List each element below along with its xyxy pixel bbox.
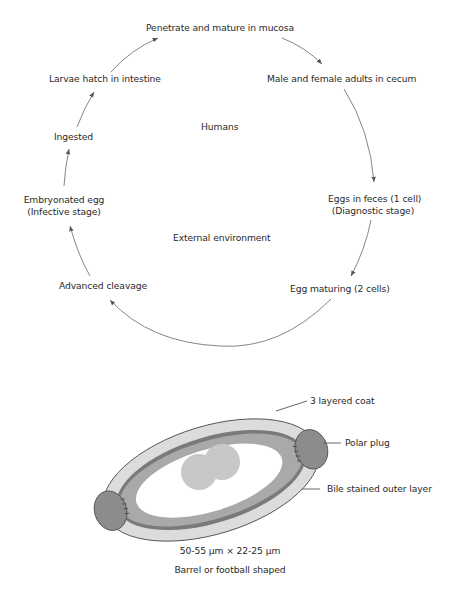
label-bile-stained-outer-layer: Bile stained outer layer bbox=[327, 483, 432, 495]
egg-shape: Barrel or football shaped bbox=[150, 564, 310, 576]
egg-dimensions: 50-55 µm × 22-25 µm bbox=[150, 545, 310, 557]
label-three-layered-coat: 3 layered coat bbox=[310, 395, 375, 407]
trichuris-egg-illustration bbox=[0, 0, 450, 606]
egg-cell-right bbox=[204, 444, 240, 480]
leader-coat bbox=[276, 401, 307, 411]
label-polar-plug: Polar plug bbox=[345, 437, 390, 449]
